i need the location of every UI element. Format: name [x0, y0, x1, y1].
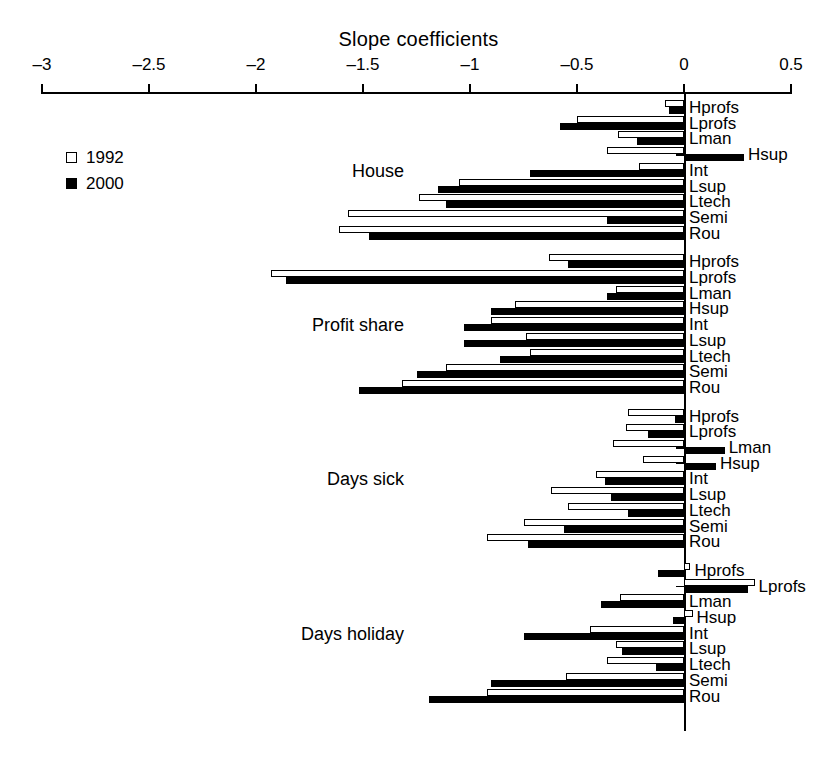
- bar-1992: [515, 301, 684, 308]
- bar-1992: [665, 100, 684, 107]
- category-label: Rou: [689, 533, 720, 550]
- bar-2000: [500, 356, 684, 363]
- x-axis-tick-4: [469, 84, 471, 93]
- x-axis-label-5: –0.5: [560, 55, 593, 75]
- bar-1992: [684, 563, 690, 570]
- bar-2000: [637, 138, 684, 145]
- bar-row: Rou: [0, 226, 837, 242]
- bar-1992: [620, 594, 684, 601]
- x-axis-tick-0: [41, 84, 43, 94]
- bar-1992: [530, 349, 684, 356]
- category-tick: [676, 586, 684, 588]
- bar-2000: [491, 308, 684, 315]
- x-axis-label-0: –3: [33, 55, 52, 75]
- category-label: Hprofs: [694, 562, 744, 579]
- bar-2000: [560, 123, 684, 130]
- plot-area: HprofsLprofsLmanHsupIntLsupLtechSemiRouH…: [0, 94, 837, 734]
- group-label-2: Days sick: [327, 469, 404, 490]
- bar-2000: [564, 526, 684, 533]
- category-tick: [676, 463, 684, 465]
- bar-1992: [446, 364, 684, 371]
- x-axis-tick-2: [255, 84, 257, 93]
- bar-1992: [491, 317, 684, 324]
- bar-2000: [601, 601, 684, 608]
- bar-row: Hsup: [0, 147, 837, 163]
- bar-1992: [618, 131, 684, 138]
- bar-row: Rou: [0, 380, 837, 396]
- bar-2000: [446, 201, 684, 208]
- bar-2000: [530, 170, 684, 177]
- bar-row: Lman: [0, 131, 837, 147]
- group-label-1: Profit share: [312, 315, 404, 336]
- bar-2000: [669, 107, 684, 114]
- bar-2000: [359, 387, 684, 394]
- bar-1992: [549, 254, 684, 261]
- category-label: Lprofs: [759, 578, 806, 595]
- bar-row: Rou: [0, 689, 837, 705]
- category-label: Rou: [689, 688, 720, 705]
- bar-1992: [639, 163, 684, 170]
- bar-1992: [487, 689, 684, 696]
- bar-1992: [616, 641, 684, 648]
- bar-2000: [622, 648, 684, 655]
- group-label-0: House: [352, 161, 404, 182]
- bar-1992: [577, 116, 684, 123]
- bar-row: Hsup: [0, 610, 837, 626]
- bar-row: Rou: [0, 534, 837, 550]
- x-axis-tick-7: [790, 84, 792, 94]
- bar-2000: [286, 277, 684, 284]
- bar-2000: [464, 324, 684, 331]
- bar-2000: [429, 696, 684, 703]
- category-tick: [676, 447, 684, 449]
- bar-2000: [675, 416, 684, 423]
- bar-1992: [607, 657, 684, 664]
- bar-2000: [673, 617, 684, 624]
- x-axis-tick-5: [576, 84, 578, 93]
- bar-1992: [607, 147, 684, 154]
- bar-1992: [526, 333, 684, 340]
- category-label: Rou: [689, 225, 720, 242]
- bar-row: Hsup: [0, 301, 837, 317]
- category-label: Lman: [689, 130, 732, 147]
- x-axis-label-6: 0: [679, 55, 688, 75]
- bar-1992: [613, 440, 684, 447]
- bar-2000: [607, 293, 684, 300]
- bar-2000: [417, 371, 685, 378]
- category-label: Hsup: [748, 146, 788, 163]
- bar-row: Hprofs: [0, 563, 837, 579]
- bar-1992: [348, 210, 684, 217]
- x-axis-label-3: –1.5: [346, 55, 379, 75]
- category-tick: [676, 154, 684, 156]
- bar-1992: [551, 487, 684, 494]
- bar-1992: [339, 226, 684, 233]
- bar-1992: [459, 179, 684, 186]
- bar-1992: [568, 503, 684, 510]
- bar-2000: [605, 478, 684, 485]
- bar-1992: [271, 270, 684, 277]
- bar-2000: [648, 431, 684, 438]
- bar-2000: [369, 233, 684, 240]
- bar-1992: [628, 409, 684, 416]
- bar-2000: [524, 633, 685, 640]
- category-label: Rou: [689, 379, 720, 396]
- x-axis-label-1: –2.5: [132, 55, 165, 75]
- bar-1992: [626, 424, 684, 431]
- bar-1992: [524, 519, 685, 526]
- bar-2000: [656, 664, 684, 671]
- bar-1992: [566, 673, 684, 680]
- bar-row: Hsup: [0, 456, 837, 472]
- bar-2000: [438, 186, 684, 193]
- bar-1992: [590, 626, 684, 633]
- bar-2000: [684, 447, 725, 454]
- bar-row: Lprofs: [0, 424, 837, 440]
- x-axis-tick-1: [148, 84, 150, 93]
- x-axis-label-7: 0.5: [779, 55, 803, 75]
- chart-figure: Slope coefficients –3–2.5–2–1.5–1–0.500.…: [0, 0, 837, 757]
- bar-1992: [596, 471, 684, 478]
- bar-1992: [643, 456, 684, 463]
- x-axis-tick-labels: –3–2.5–2–1.5–1–0.500.5: [0, 55, 837, 77]
- bar-2000: [528, 541, 684, 548]
- bar-2000: [611, 494, 684, 501]
- bar-1992: [419, 194, 684, 201]
- bar-2000: [607, 217, 684, 224]
